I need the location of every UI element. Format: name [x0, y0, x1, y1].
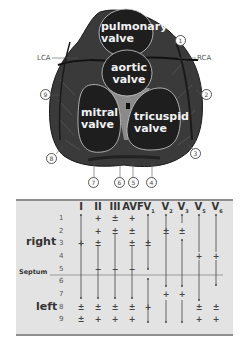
row-9: 9 — [59, 315, 63, 323]
symbol-V5-row8: ± — [196, 303, 203, 312]
row-2: 2 — [59, 227, 63, 235]
lead-v6-sub: 6 — [219, 208, 222, 214]
lead-v5-letter: V — [194, 201, 202, 212]
symbol-V6-row9: + — [213, 315, 220, 324]
row-4: 4 — [59, 252, 63, 260]
lead-header-I: I — [79, 201, 83, 212]
row-7: 7 — [59, 290, 63, 298]
symbol-V5-row4: + — [196, 252, 203, 261]
lead-header-II: II — [94, 201, 101, 212]
lead-v1-sub: 1 — [151, 208, 154, 214]
symbol-AVF-row3: ± — [129, 239, 136, 248]
lead-v2-letter: V — [161, 201, 169, 212]
symbol-III-row1: ± — [112, 214, 119, 223]
symbol-AVF-row9: + — [129, 315, 136, 324]
right-side-label: right — [26, 235, 56, 248]
symbol-II-row3: ± — [95, 239, 102, 248]
symbol-AVF-row2: ± — [129, 227, 136, 236]
lead-v2-sub: 2 — [169, 208, 172, 214]
symbol-II-row5: − — [95, 265, 102, 274]
symbol-V2-row7: + — [163, 290, 170, 299]
lead-v5-sub: 5 — [202, 208, 205, 214]
symbol-III-row5: − — [112, 265, 119, 274]
symbol-V2-row2: ± — [163, 227, 170, 236]
row-1: 1 — [59, 214, 63, 222]
symbol-V6-row8: ± — [213, 303, 220, 312]
symbol-III-row8: ± — [112, 303, 119, 312]
lead-header-AVF: AVF — [122, 201, 144, 212]
lead-header-V2: V2 — [161, 201, 172, 214]
lead-v1-letter: V — [143, 201, 151, 212]
lead-arrows — [0, 0, 248, 348]
lead-header-V5: V5 — [194, 201, 205, 214]
symbol-II-row8: ± — [95, 303, 102, 312]
symbol-I-row9: ± — [78, 315, 85, 324]
symbol-I-row3: + — [78, 239, 85, 248]
row-8: 8 — [59, 303, 63, 311]
septum-label: Septum — [19, 268, 47, 276]
lead-v3-letter: V — [177, 201, 185, 212]
symbol-V6-row4: + — [213, 252, 220, 261]
symbol-II-row9: + — [95, 315, 102, 324]
row-3: 3 — [59, 239, 63, 247]
left-side-label: left — [36, 300, 57, 313]
symbol-III-row9: + — [112, 315, 119, 324]
symbol-V3-row7: + — [179, 290, 186, 299]
lead-header-V3: V3 — [177, 201, 188, 214]
symbol-III-row2: ± — [112, 227, 119, 236]
lead-header-III: III — [109, 201, 120, 212]
symbol-V3-row2: ± — [179, 227, 186, 236]
lead-header-V1: V1 — [143, 201, 154, 214]
symbol-V1-row3: ± — [145, 239, 152, 248]
symbol-II-row2: + — [95, 227, 102, 236]
lead-header-V6: V6 — [211, 201, 222, 214]
row-5: 5 — [59, 265, 63, 273]
symbol-V5-row9: + — [196, 315, 203, 324]
lead-v3-sub: 3 — [185, 208, 188, 214]
lead-v6-letter: V — [211, 201, 219, 212]
symbol-AVF-row8: ± — [129, 303, 136, 312]
symbol-AVF-row5: − — [129, 265, 136, 274]
symbol-I-row8: ± — [78, 303, 85, 312]
symbol-AVF-row1: + — [129, 214, 136, 223]
symbol-V1-row8: + — [145, 303, 152, 312]
row-6: 6 — [59, 277, 63, 285]
symbol-II-row1: + — [95, 214, 102, 223]
